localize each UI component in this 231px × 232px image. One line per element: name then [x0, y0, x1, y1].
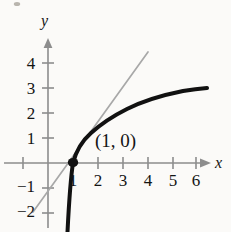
- y-tick-label-2: 2: [24, 105, 38, 122]
- y-tick-label-neg2: −2: [14, 203, 38, 220]
- y-axis-label: y: [41, 13, 48, 29]
- x-tick-label-6: 6: [189, 172, 203, 189]
- print-speck: [14, 2, 20, 6]
- y-axis-arrowhead: [44, 38, 53, 48]
- y-tick-label-4: 4: [24, 55, 38, 72]
- x-axis-arrowhead: [200, 159, 211, 168]
- x-tick-label-1: 1: [66, 172, 80, 189]
- graph-figure: y x 4 3 2 1 −1 −2 1 2 3 4 5 6 (1, 0): [0, 0, 231, 232]
- x-axis-label: x: [215, 155, 222, 171]
- point-marker-1-0: [68, 158, 78, 167]
- y-tick-label-neg1: −1: [14, 178, 38, 195]
- x-tick-label-4: 4: [141, 172, 155, 189]
- point-annotation: (1, 0): [95, 131, 136, 150]
- y-tick-label-1: 1: [24, 130, 38, 147]
- x-tick-label-3: 3: [116, 172, 130, 189]
- log-curve: [68, 88, 208, 232]
- y-tick-label-3: 3: [24, 80, 38, 97]
- x-tick-label-5: 5: [166, 172, 180, 189]
- x-tick-label-2: 2: [91, 172, 105, 189]
